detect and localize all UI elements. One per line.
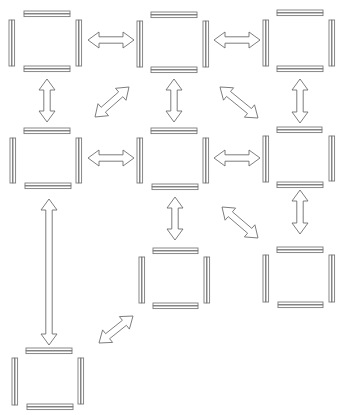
- node-bottom-edge-bar: [153, 303, 198, 306]
- node-bottom-edge-bar: [277, 185, 323, 188]
- node-left-edge-bar: [266, 20, 269, 66]
- node-right-edge-bar: [203, 138, 206, 183]
- node-right-edge-bar: [78, 358, 81, 404]
- node-top-edge-bar: [277, 247, 323, 250]
- node-left-edge-bar: [142, 257, 145, 303]
- node-top-edge-bar: [153, 248, 198, 251]
- node-top-edge-bar: [151, 12, 197, 15]
- node-bottom-edge-bar: [277, 69, 323, 72]
- node-left-edge-bar: [13, 138, 16, 183]
- node-bottom-edge-bar: [152, 184, 198, 187]
- node-bottom-edge-bar: [27, 404, 73, 407]
- node-top-edge-bar: [151, 15, 197, 18]
- node-right-edge-bar: [206, 21, 209, 67]
- node-right-edge-bar: [79, 138, 82, 183]
- node-top-edge-bar: [24, 11, 70, 14]
- node-bottom-edge-bar: [151, 67, 197, 70]
- node-top-edge-bar: [277, 13, 323, 16]
- node-left-edge-bar: [10, 138, 13, 183]
- node-top-edge-bar: [24, 14, 70, 17]
- node-bottom-edge-bar: [278, 302, 323, 305]
- node-left-edge-bar: [263, 20, 266, 66]
- node-right-edge-bar: [329, 255, 332, 302]
- node-right-edge-bar: [329, 20, 332, 66]
- node-left-edge-bar: [140, 138, 143, 183]
- node-bottom-edge-bar: [24, 69, 70, 72]
- state-transition-diagram: [0, 0, 345, 415]
- node-right-edge-bar: [81, 358, 84, 404]
- node-bottom-edge-bar: [25, 186, 71, 189]
- node-bottom-edge-bar: [25, 183, 71, 186]
- node-top-edge-bar: [277, 10, 323, 13]
- node-right-edge-bar: [204, 257, 207, 303]
- node-left-edge-bar: [263, 136, 266, 182]
- node-left-edge-bar: [266, 255, 269, 302]
- node-right-edge-bar: [332, 20, 335, 66]
- node-left-edge-bar: [12, 358, 15, 405]
- node-top-edge-bar: [24, 131, 70, 134]
- node-right-edge-bar: [206, 138, 209, 183]
- node-left-edge-bar: [137, 21, 140, 67]
- node-top-edge-bar: [277, 130, 322, 133]
- node-left-edge-bar: [263, 255, 266, 302]
- node-top-edge-bar: [26, 348, 72, 351]
- node-bottom-edge-bar: [24, 66, 70, 69]
- node-top-edge-bar: [151, 131, 197, 134]
- node-left-edge-bar: [140, 21, 143, 67]
- node-top-edge-bar: [24, 128, 70, 131]
- node-bottom-edge-bar: [278, 305, 323, 308]
- node-right-edge-bar: [76, 138, 79, 183]
- node-top-edge-bar: [277, 250, 323, 253]
- node-right-edge-bar: [79, 20, 82, 66]
- node-bottom-edge-bar: [27, 407, 73, 410]
- node-left-edge-bar: [12, 20, 15, 66]
- node-right-edge-bar: [76, 20, 79, 66]
- node-right-edge-bar: [207, 257, 210, 303]
- node-left-edge-bar: [9, 20, 12, 66]
- node-bottom-edge-bar: [151, 70, 197, 73]
- node-right-edge-bar: [332, 255, 335, 302]
- node-bottom-edge-bar: [277, 182, 323, 185]
- node-top-edge-bar: [26, 351, 72, 354]
- node-left-edge-bar: [15, 358, 18, 405]
- node-right-edge-bar: [332, 136, 335, 181]
- node-left-edge-bar: [266, 136, 269, 182]
- node-right-edge-bar: [329, 136, 332, 181]
- node-left-edge-bar: [139, 257, 142, 303]
- node-top-edge-bar: [277, 127, 322, 130]
- node-top-edge-bar: [153, 251, 198, 254]
- node-top-edge-bar: [151, 128, 197, 131]
- node-left-edge-bar: [137, 138, 140, 183]
- node-bottom-edge-bar: [277, 66, 323, 69]
- node-bottom-edge-bar: [152, 187, 198, 190]
- node-right-edge-bar: [203, 21, 206, 67]
- node-bottom-edge-bar: [153, 306, 198, 309]
